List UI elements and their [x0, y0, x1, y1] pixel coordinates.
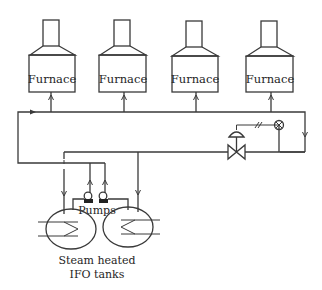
pump-1 — [84, 192, 93, 203]
chimney — [114, 20, 130, 46]
furnace-label: Furnace — [99, 72, 148, 86]
heating-coil-icon — [64, 222, 78, 236]
hood — [172, 47, 218, 56]
tanks-label-line-1: Steam heated — [58, 254, 135, 267]
pump-icon — [84, 192, 92, 200]
furnace-3: Furnace — [171, 21, 220, 92]
hood — [100, 46, 146, 55]
pump-base — [84, 199, 93, 203]
tanks-label-line-2: IFO tanks — [70, 268, 125, 281]
pump-discharge-lines — [88, 163, 108, 193]
furnace-label: Furnace — [28, 72, 77, 86]
hood — [247, 47, 293, 56]
tank-shell — [46, 209, 96, 249]
ring-main-line — [18, 112, 305, 163]
furnace-2: Furnace — [99, 20, 148, 92]
furnace-1: Furnace — [28, 20, 77, 92]
chimney — [261, 21, 277, 47]
furnace-4: Furnace — [246, 21, 295, 92]
heating-coil-icon — [121, 220, 135, 234]
chimney — [43, 20, 59, 46]
furnace-label: Furnace — [171, 72, 220, 86]
pump-2 — [99, 192, 108, 203]
pump-icon — [99, 192, 107, 200]
arrow-right-icon — [30, 110, 36, 115]
supply-ring-main — [18, 110, 308, 164]
furnace-label: Furnace — [246, 72, 295, 86]
valve-actuator-icon — [229, 132, 244, 137]
chimney — [186, 21, 202, 47]
furnace-feed-lines — [49, 92, 274, 112]
hood — [30, 46, 75, 55]
tank-shell — [103, 207, 153, 247]
pumps-label: Pumps — [78, 204, 116, 217]
control-valve — [228, 122, 279, 159]
pump-base — [99, 199, 108, 203]
fuel-oil-system-diagram: Furnace Furnace Furnace Furnace — [0, 0, 322, 290]
